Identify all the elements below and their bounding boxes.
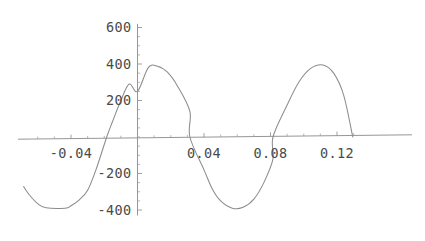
chart-container: -0.040.040.080.12 -400-200200400600 [0,0,425,241]
x-tick-labels: -0.040.040.080.12 [50,145,354,161]
x-tick-label: 0.04 [187,145,221,161]
y-axis-ticks [138,28,143,211]
axes [18,24,412,216]
y-tick-label: -400 [97,202,131,218]
y-tick-label: 600 [106,19,132,35]
y-tick-label: 400 [106,56,132,72]
y-tick-label: 200 [106,92,132,108]
y-tick-label: -200 [97,165,131,181]
sine-wave-plot: -0.040.040.080.12 -400-200200400600 [0,0,425,241]
x-tick-label: 0.08 [253,145,287,161]
x-tick-label: 0.12 [320,145,354,161]
x-tick-label: -0.04 [50,145,93,161]
waveform-curve [24,65,353,209]
x-axis-ticks [38,132,354,139]
data-series-group [24,65,353,209]
y-tick-labels: -400-200200400600 [97,19,131,218]
